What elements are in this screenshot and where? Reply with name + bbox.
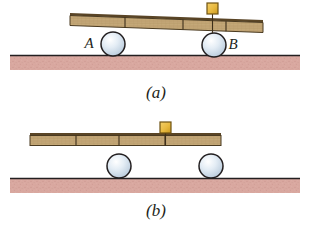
sphere-right xyxy=(199,154,223,178)
caption-b: (b) xyxy=(146,201,166,220)
ground-b xyxy=(10,179,300,194)
sphere-a-label: A xyxy=(83,35,94,51)
panel-a: A B (a) xyxy=(10,3,300,102)
sphere-b-label: B xyxy=(228,36,237,52)
plank-b-body xyxy=(30,136,221,146)
sphere-left xyxy=(107,154,131,178)
sphere-a xyxy=(101,32,125,56)
plank-a xyxy=(70,13,263,33)
ground-a xyxy=(10,56,300,71)
caption-a: (a) xyxy=(146,83,166,102)
block-a xyxy=(207,3,218,14)
sphere-a-group xyxy=(101,32,125,56)
sphere-b xyxy=(202,33,226,57)
figure-canvas: A B (a) xyxy=(0,0,313,231)
physics-figure: A B (a) xyxy=(0,0,313,231)
sphere-b-group xyxy=(202,33,226,57)
panel-b: (b) xyxy=(10,122,300,220)
ground-fill-a xyxy=(10,56,300,70)
sphere-right-group xyxy=(199,154,223,178)
plank-b xyxy=(30,133,221,146)
ground-fill-b xyxy=(10,179,300,193)
sphere-left-group xyxy=(107,154,131,178)
block-b xyxy=(160,122,171,133)
